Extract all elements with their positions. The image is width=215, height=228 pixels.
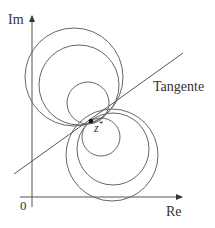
tangent-label: Tangente [153,79,204,94]
tangent-circles-diagram: Im Re 0 Tangente z* [0,0,215,228]
point-label: z* [93,120,103,135]
origin-label: 0 [20,198,27,213]
lower-circle [66,109,158,201]
upper-circles [25,28,123,126]
real-axis-label: Re [166,204,182,219]
lower-circle [77,113,149,185]
imaginary-axis-label: Im [8,12,24,27]
tangent-point [89,119,94,124]
lower-circles [66,109,158,201]
